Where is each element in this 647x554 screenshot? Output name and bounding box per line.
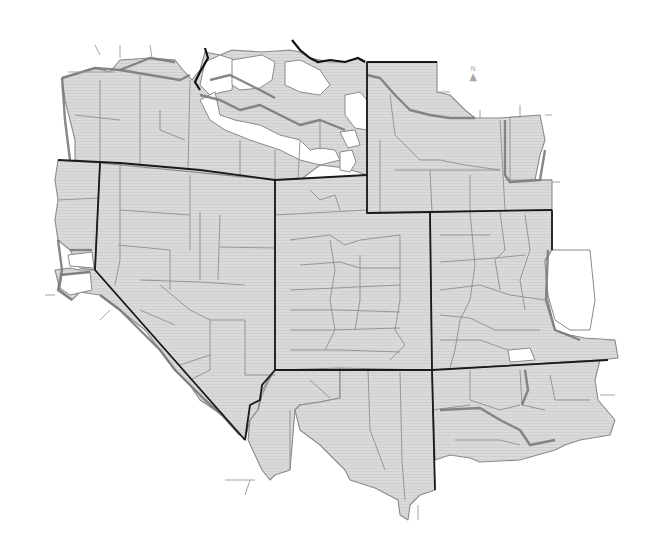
colorado-region [430,210,618,370]
north-arrow-icon: ▲ [466,73,480,80]
wyoming-region [367,62,552,213]
north-arrow: N ▲ [466,66,480,80]
texas-oklahoma-region [432,360,615,462]
western-us-county-map [0,0,647,554]
